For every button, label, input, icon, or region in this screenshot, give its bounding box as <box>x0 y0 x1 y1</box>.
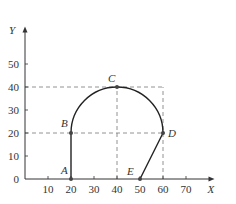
y-tick-label: 40 <box>8 81 20 93</box>
arc-BC <box>71 87 117 133</box>
y-tick-label: 0 <box>14 173 20 185</box>
point-B <box>69 131 73 135</box>
point-label-E: E <box>126 165 134 177</box>
point-D <box>161 131 165 135</box>
point-label-A: A <box>60 164 68 176</box>
point-C <box>115 85 119 89</box>
y-tick-label: 10 <box>8 150 20 162</box>
point-E <box>138 177 142 181</box>
point-label-C: C <box>108 72 116 84</box>
point-A <box>69 177 73 181</box>
y-tick-label: 30 <box>8 104 20 116</box>
x-tick-label: 60 <box>158 183 170 195</box>
x-tick-label: 30 <box>89 183 101 195</box>
arc-CD <box>117 87 163 133</box>
x-tick-label: 40 <box>112 183 124 195</box>
x-tick-label: 10 <box>43 183 55 195</box>
y-tick-label: 50 <box>8 58 20 70</box>
y-axis-arrow-icon <box>23 27 28 33</box>
x-axis-label: X <box>207 183 216 195</box>
point-label-B: B <box>61 117 68 129</box>
x-tick-label: 70 <box>181 183 193 195</box>
y-axis-label: Y <box>9 24 17 36</box>
y-tick-label: 20 <box>8 127 20 139</box>
x-axis-arrow-icon <box>209 177 215 182</box>
point-label-D: D <box>167 127 176 139</box>
x-tick-label: 50 <box>135 183 147 195</box>
x-tick-label: 20 <box>66 183 78 195</box>
path-diagram: XY1020304050607001020304050ABCDE <box>0 0 236 204</box>
segment-DE <box>140 133 163 179</box>
